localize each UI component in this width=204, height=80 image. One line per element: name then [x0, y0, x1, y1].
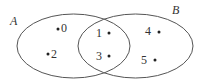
point-0-dot: [57, 28, 60, 31]
set-b-label: B: [172, 3, 180, 17]
point-0-label: 0: [61, 21, 67, 35]
point-2-dot: [47, 53, 50, 56]
venn-diagram: A B 0 2 1 3 4 5: [0, 0, 204, 80]
point-3-dot: [108, 55, 111, 58]
set-a-label: A: [9, 14, 18, 28]
point-1-dot: [108, 32, 111, 35]
point-5-dot: [154, 59, 157, 62]
set-a-ellipse: [17, 14, 130, 78]
point-4-dot: [158, 31, 161, 34]
point-4-label: 4: [145, 24, 151, 38]
point-2-label: 2: [51, 47, 57, 61]
set-b-ellipse: [78, 14, 193, 78]
point-1-label: 1: [96, 26, 102, 40]
point-3-label: 3: [96, 49, 102, 63]
point-5-label: 5: [141, 53, 147, 67]
